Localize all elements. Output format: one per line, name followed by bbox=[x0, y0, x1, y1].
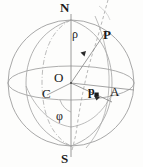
point-marker bbox=[95, 93, 99, 97]
label-projection-p: p bbox=[88, 85, 95, 97]
sphere-diagram-svg bbox=[0, 0, 143, 167]
radius-o-to-a bbox=[71, 83, 134, 90]
label-angle-phi: φ bbox=[56, 110, 63, 122]
label-point-c: C bbox=[42, 87, 51, 100]
label-point-a: A bbox=[110, 85, 119, 98]
spherical-coordinates-figure: N S O C A P p ρ φ bbox=[0, 0, 143, 167]
label-north-pole: N bbox=[60, 1, 69, 14]
label-point-p: P bbox=[103, 28, 111, 41]
latitude-arc-lower bbox=[26, 86, 114, 127]
label-radius-rho: ρ bbox=[72, 28, 78, 40]
label-south-pole: S bbox=[61, 152, 68, 165]
meridian-front-left bbox=[26, 20, 71, 146]
rho-arrowhead bbox=[81, 51, 87, 57]
label-center-o: O bbox=[54, 71, 63, 84]
center-point-o bbox=[70, 82, 72, 84]
